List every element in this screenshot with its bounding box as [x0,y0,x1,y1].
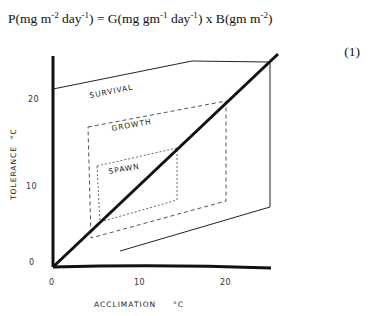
y-tick-0: 0 [29,258,35,267]
y-tick-20: 20 [28,95,39,104]
growth-label: GROWTH [111,117,153,133]
survival-upper-line [53,61,268,89]
y-axis-label: TOLERANCE °C [9,128,18,201]
x-axis [53,266,271,268]
survival-label: SURVIVAL [89,83,134,100]
survival-lower-line [120,207,270,251]
x-tick-10: 10 [134,278,145,287]
x-tick-20: 20 [220,278,231,287]
tolerance-diagram: SURVIVAL GROWTH SPAWN 0 10 20 0 10 20 AC… [0,0,370,316]
isotherm-diagonal [53,54,278,267]
x-axis-label: ACCLIMATION °C [94,300,184,309]
y-tick-10: 10 [26,182,37,191]
spawn-label: SPAWN [108,162,141,176]
x-tick-0: 0 [49,278,55,287]
